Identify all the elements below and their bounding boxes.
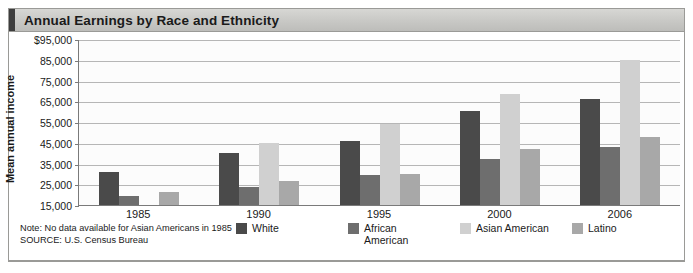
legend-swatch (460, 223, 471, 234)
bar-group (79, 40, 199, 205)
bar (259, 143, 279, 205)
bar (99, 172, 119, 205)
y-tick-label: 85,000 (40, 55, 72, 67)
y-tick-label: 25,000 (40, 179, 72, 191)
source-value: U.S. Census Bureau (64, 235, 148, 245)
legend-item: White (236, 222, 348, 234)
bar-group (199, 40, 319, 205)
bar (159, 192, 179, 205)
y-tick-label: 35,000 (40, 159, 72, 171)
gridline (79, 206, 680, 207)
bar (400, 174, 420, 205)
bar (580, 99, 600, 205)
legend-swatch (348, 223, 359, 234)
bar (600, 147, 620, 205)
source-line: SOURCE: U.S. Census Bureau (20, 235, 228, 247)
y-axis-tick-labels: $95,00085,00075,00065,00055,00045,00035,… (20, 40, 76, 215)
y-tick-label: 75,000 (40, 76, 72, 88)
bar (279, 181, 299, 205)
y-axis-title-text: Mean annual income (4, 75, 16, 183)
bar-group (560, 40, 680, 205)
legend-item: African American (348, 222, 460, 246)
bar (380, 124, 400, 205)
legend-swatch (572, 223, 583, 234)
chart-title: Annual Earnings by Race and Ethnicity (15, 13, 279, 28)
plot-wrapper: $95,00085,00075,00065,00055,00045,00035,… (20, 40, 680, 215)
bar-group (319, 40, 439, 205)
bar (239, 187, 259, 205)
chart-figure: Annual Earnings by Race and Ethnicity Me… (0, 0, 693, 273)
legend-item: Latino (572, 222, 684, 234)
bar (219, 153, 239, 205)
bar (640, 137, 660, 205)
bar (500, 94, 520, 205)
y-axis-title: Mean annual income (2, 44, 18, 214)
y-tick-mark (75, 206, 79, 207)
source-label: SOURCE: (20, 235, 62, 245)
footer-rule (8, 261, 685, 262)
bar (360, 175, 380, 205)
legend-label: African American (359, 222, 438, 246)
y-tick-label: $95,000 (34, 34, 72, 46)
bar (620, 60, 640, 205)
y-tick-label: 15,000 (40, 200, 72, 212)
footnotes: Note: No data available for Asian Americ… (20, 222, 228, 246)
bar (340, 141, 360, 205)
legend-swatch (236, 223, 247, 234)
bar-group (440, 40, 560, 205)
bars-layer (79, 40, 680, 205)
y-tick-label: 65,000 (40, 96, 72, 108)
legend-label: Asian American (471, 222, 549, 234)
legend-item: Asian American (460, 222, 572, 234)
plot-area (78, 40, 680, 206)
bar (520, 149, 540, 205)
chart-footer: Note: No data available for Asian Americ… (20, 222, 670, 256)
legend-label: Latino (583, 222, 617, 234)
bar (460, 111, 480, 205)
y-tick-label: 55,000 (40, 117, 72, 129)
y-tick-label: 45,000 (40, 138, 72, 150)
chart-legend: WhiteAfrican AmericanAsian AmericanLatin… (228, 222, 684, 246)
bar (480, 159, 500, 205)
chart-header-banner: Annual Earnings by Race and Ethnicity (8, 8, 685, 32)
legend-label: White (247, 222, 279, 234)
bar (119, 196, 139, 205)
note-line: Note: No data available for Asian Americ… (20, 223, 228, 235)
